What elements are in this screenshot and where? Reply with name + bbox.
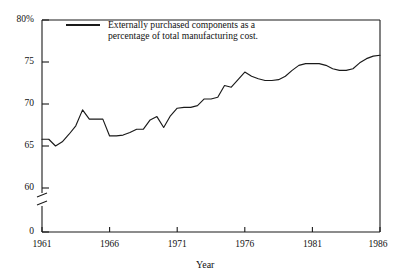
y-axis-break-symbol: [37, 193, 47, 205]
chart-figure: 80% 75 70 65 60 0 1961 1966 1971 1976 19…: [0, 0, 398, 278]
y-tick-label-75: 75: [0, 57, 34, 67]
x-axis-ticks: [42, 227, 380, 232]
y-tick-label-70: 70: [0, 99, 34, 109]
x-axis-title: Year: [196, 259, 214, 270]
x-tick-label-1986: 1986: [358, 240, 398, 250]
y-tick-label-65: 65: [0, 141, 34, 151]
x-tick-label-1966: 1966: [90, 240, 130, 250]
x-tick-label-1976: 1976: [225, 240, 265, 250]
x-tick-label-1971: 1971: [157, 240, 197, 250]
y-axis-ticks: [42, 20, 49, 232]
y-tick-label-0: 0: [0, 227, 34, 237]
x-tick-label-1981: 1981: [292, 240, 332, 250]
data-series-line: [42, 55, 380, 146]
y-tick-label-80: 80%: [0, 15, 34, 25]
legend-label-line-2: percentage of total manufacturing cost.: [108, 30, 358, 41]
x-tick-label-1961: 1961: [22, 240, 62, 250]
y-tick-label-60: 60: [0, 183, 34, 193]
legend-entry: Externally purchased components as a per…: [108, 19, 358, 42]
legend-label-line-1: Externally purchased components as a: [108, 19, 358, 30]
plot-frame: [42, 20, 380, 232]
